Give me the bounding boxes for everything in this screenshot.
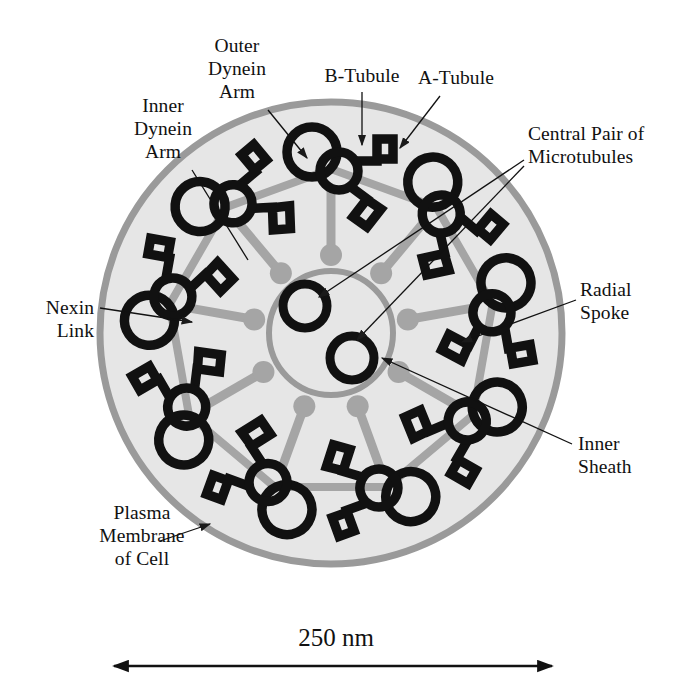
label-line: of Cell xyxy=(115,548,170,569)
label-line: Dynein xyxy=(134,118,192,139)
radial-spoke-head xyxy=(243,308,265,330)
radial-spoke-head xyxy=(270,262,292,284)
radial-spoke-head xyxy=(397,308,419,330)
label-line: Dynein xyxy=(208,58,266,79)
label-line: Inner xyxy=(578,433,620,454)
scale-bar-label: 250 nm xyxy=(298,624,374,651)
label-line: Plasma xyxy=(114,502,171,523)
label-line: Spoke xyxy=(580,302,629,323)
radial-spoke-head xyxy=(388,361,410,383)
label-a-tubule: A-Tubule xyxy=(418,67,494,88)
label-line: B-Tubule xyxy=(325,65,400,86)
label-line: Central Pair of xyxy=(528,123,645,144)
label-line: Nexin xyxy=(46,297,94,318)
axoneme-figure-svg: InnerDyneinArmOuterDyneinArmB-TubuleA-Tu… xyxy=(0,0,673,698)
radial-spoke-head xyxy=(252,361,274,383)
label-line: Arm xyxy=(219,81,255,102)
label-b-tubule: B-Tubule xyxy=(325,65,400,86)
label-line: Outer xyxy=(215,35,260,56)
radial-spoke-head xyxy=(320,244,342,266)
radial-spoke-head xyxy=(370,262,392,284)
radial-spoke-head xyxy=(293,395,315,417)
label-line: Link xyxy=(57,320,94,341)
label-line: Radial xyxy=(580,279,632,300)
label-line: Membrane xyxy=(99,525,184,546)
radial-spoke-head xyxy=(347,395,369,417)
label-line: A-Tubule xyxy=(418,67,494,88)
label-line: Arm xyxy=(145,141,181,162)
label-line: Microtubules xyxy=(528,146,633,167)
label-line: Inner xyxy=(142,95,184,116)
label-line: Sheath xyxy=(578,456,632,477)
axoneme-diagram: InnerDyneinArmOuterDyneinArmB-TubuleA-Tu… xyxy=(0,0,673,698)
